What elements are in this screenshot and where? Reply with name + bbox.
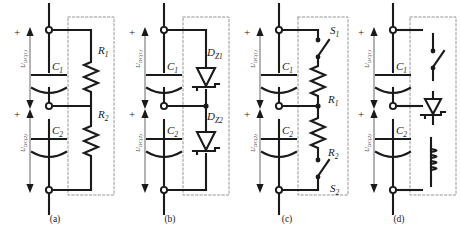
voltage-arrow-2-head-top bbox=[26, 109, 33, 118]
dz2-triangle bbox=[197, 132, 215, 150]
voltage-arrow-2-head-top bbox=[141, 109, 148, 118]
label-r1: R1 bbox=[97, 44, 108, 59]
voltage-label-1: UDC(1) bbox=[134, 50, 143, 68]
s1-contact-top bbox=[316, 38, 321, 43]
voltage-arrow-1-head-bottom bbox=[141, 100, 148, 109]
caption-c: (c) bbox=[282, 214, 293, 225]
svg-text:UDC(2): UDC(2) bbox=[363, 134, 372, 152]
voltage-label-2: UDC(2) bbox=[19, 134, 28, 152]
node-bottom bbox=[276, 187, 282, 193]
voltage-arrow-2-head-bottom bbox=[141, 184, 148, 193]
voltage-arrow-1-head-top bbox=[26, 27, 33, 36]
legend-switch-contact-bottom bbox=[431, 66, 436, 71]
svg-text:UDC(2): UDC(2) bbox=[134, 134, 143, 152]
s2-contact-top bbox=[316, 158, 321, 163]
svg-text:UDC(2): UDC(2) bbox=[249, 134, 258, 152]
panel-d-svg: + + UDC(1) UDC(2) C1 C2 (d) bbox=[352, 0, 461, 232]
voltage-arrow-1-head-bottom bbox=[370, 100, 377, 109]
label-r2: R2 bbox=[97, 108, 109, 123]
legend-switch-blade bbox=[433, 51, 444, 67]
label-c1: C1 bbox=[52, 60, 63, 75]
svg-text:UDC(1): UDC(1) bbox=[19, 50, 28, 68]
svg-text:UDC(2): UDC(2) bbox=[19, 134, 28, 152]
junction-mid-right bbox=[315, 103, 320, 108]
voltage-arrow-2-head-top bbox=[370, 109, 377, 118]
voltage-arrow-2-head-top bbox=[256, 109, 263, 118]
voltage-label-1: UDC(1) bbox=[249, 50, 258, 68]
r2-resistor bbox=[311, 106, 325, 158]
label-c2: C2 bbox=[396, 124, 407, 139]
polarity-plus-1: + bbox=[358, 26, 364, 38]
voltage-label-1: UDC(1) bbox=[363, 50, 372, 68]
node-top bbox=[276, 27, 282, 33]
svg-text:UDC(1): UDC(1) bbox=[249, 50, 258, 68]
legend-switch-contact-top bbox=[431, 49, 436, 54]
node-mid bbox=[161, 103, 167, 109]
voltage-arrow-1-head-top bbox=[256, 27, 263, 36]
polarity-plus-1: + bbox=[14, 26, 20, 38]
voltage-arrow-2-head-bottom bbox=[256, 184, 263, 193]
s1-blade bbox=[318, 40, 329, 56]
panel-b-svg: + + UDC(1) UDC(2) C1 C2 DZ1 DZ2 (b) bbox=[123, 0, 233, 232]
voltage-arrow-1-head-top bbox=[141, 27, 148, 36]
node-mid bbox=[46, 103, 52, 109]
r1-resistor bbox=[311, 62, 325, 106]
node-top bbox=[161, 27, 167, 33]
figure-canvas: + + UDC(1) UDC(2) C1 C2 R1 R2 (a) bbox=[0, 0, 461, 232]
polarity-plus-2: + bbox=[244, 108, 250, 120]
caption-d: (d) bbox=[393, 214, 404, 225]
s2-contact-bottom bbox=[316, 175, 321, 180]
voltage-label-2: UDC(2) bbox=[249, 134, 258, 152]
panel-c: + + UDC(1) UDC(2) C1 C2 S1 R1 R2 S2 (c) bbox=[238, 0, 352, 232]
panel-a-svg: + + UDC(1) UDC(2) C1 C2 R1 R2 (a) bbox=[8, 0, 118, 232]
label-c2: C2 bbox=[282, 124, 293, 139]
label-c1: C1 bbox=[396, 60, 407, 75]
polarity-plus-1: + bbox=[244, 26, 250, 38]
label-c2: C2 bbox=[167, 124, 178, 139]
node-bottom bbox=[390, 187, 396, 193]
voltage-label-1: UDC(1) bbox=[19, 50, 28, 68]
voltage-arrow-2-head-bottom bbox=[370, 184, 377, 193]
node-top bbox=[46, 27, 52, 33]
r2-resistor bbox=[84, 122, 98, 158]
voltage-arrow-2-head-bottom bbox=[26, 184, 33, 193]
s1-contact-bottom bbox=[316, 55, 321, 60]
dz1-triangle bbox=[197, 68, 215, 86]
panel-c-svg: + + UDC(1) UDC(2) C1 C2 S1 R1 R2 S2 (c) bbox=[238, 0, 352, 232]
label-c1: C1 bbox=[282, 60, 293, 75]
polarity-plus-2: + bbox=[14, 108, 20, 120]
svg-text:UDC(1): UDC(1) bbox=[363, 50, 372, 68]
voltage-arrow-1-head-top bbox=[370, 27, 377, 36]
node-bottom bbox=[46, 187, 52, 193]
label-c2: C2 bbox=[52, 124, 63, 139]
panel-a: + + UDC(1) UDC(2) C1 C2 R1 R2 (a) bbox=[8, 0, 118, 232]
voltage-arrow-1-head-bottom bbox=[256, 100, 263, 109]
r1-resistor bbox=[84, 58, 98, 94]
voltage-label-2: UDC(2) bbox=[134, 134, 143, 152]
svg-text:UDC(1): UDC(1) bbox=[134, 50, 143, 68]
label-s1: S1 bbox=[330, 24, 339, 39]
panel-b: + + UDC(1) UDC(2) C1 C2 DZ1 DZ2 (b) bbox=[123, 0, 233, 232]
legend-zener-triangle bbox=[425, 99, 441, 114]
caption-b: (b) bbox=[164, 214, 175, 225]
label-r2: R2 bbox=[327, 146, 339, 161]
label-r1: R1 bbox=[327, 93, 338, 108]
panel-d: + + UDC(1) UDC(2) C1 C2 (d) bbox=[352, 0, 461, 232]
node-mid bbox=[390, 103, 396, 109]
label-c1: C1 bbox=[167, 60, 178, 75]
label-s2: S2 bbox=[330, 182, 340, 197]
label-dz2: DZ2 bbox=[206, 110, 223, 125]
label-dz1: DZ1 bbox=[206, 46, 223, 61]
voltage-arrow-1-head-bottom bbox=[26, 100, 33, 109]
polarity-plus-2: + bbox=[129, 108, 135, 120]
polarity-plus-2: + bbox=[358, 108, 364, 120]
s2-blade bbox=[318, 160, 329, 176]
node-mid bbox=[276, 103, 282, 109]
voltage-label-2: UDC(2) bbox=[363, 134, 372, 152]
caption-a: (a) bbox=[50, 214, 61, 225]
node-top bbox=[390, 27, 396, 33]
polarity-plus-1: + bbox=[129, 26, 135, 38]
junction-mid-right bbox=[203, 103, 208, 108]
node-bottom bbox=[161, 187, 167, 193]
